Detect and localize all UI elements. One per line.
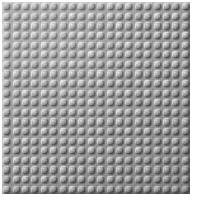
stud-cell <box>77 12 86 22</box>
stud-cell <box>11 69 20 79</box>
lego-stud <box>41 109 48 116</box>
lego-stud <box>182 70 189 77</box>
stud-cell <box>105 156 114 166</box>
lego-stud <box>13 99 20 106</box>
lego-stud <box>135 109 142 116</box>
lego-stud <box>163 80 170 87</box>
stud-cell <box>181 127 190 137</box>
stud-cell <box>181 146 190 156</box>
lego-stud <box>31 99 38 106</box>
lego-stud <box>107 42 114 49</box>
stud-cell <box>96 108 105 118</box>
stud-cell <box>40 21 49 31</box>
stud-cell <box>2 136 11 146</box>
lego-stud <box>69 176 76 183</box>
lego-stud <box>41 118 48 125</box>
stud-cell <box>21 88 30 98</box>
lego-stud <box>125 90 132 97</box>
stud-cell <box>49 146 58 156</box>
stud-cell <box>68 79 77 89</box>
lego-stud <box>116 32 123 39</box>
lego-stud <box>22 51 29 58</box>
stud-cell <box>49 156 58 166</box>
stud-cell <box>68 175 77 185</box>
lego-stud <box>107 109 114 116</box>
lego-stud <box>41 42 48 49</box>
stud-cell <box>21 50 30 60</box>
stud-cell <box>181 108 190 118</box>
lego-stud <box>13 32 20 39</box>
lego-stud <box>107 90 114 97</box>
lego-stud <box>13 138 20 145</box>
stud-cell <box>68 146 77 156</box>
stud-cell <box>143 184 152 194</box>
lego-stud <box>154 109 161 116</box>
stud-cell <box>115 50 124 60</box>
lego-stud <box>172 128 179 135</box>
lego-stud <box>31 70 38 77</box>
lego-stud <box>135 118 142 125</box>
lego-stud <box>88 176 95 183</box>
stud-cell <box>11 21 20 31</box>
lego-stud <box>31 176 38 183</box>
stud-cell <box>162 127 171 137</box>
lego-stud <box>3 157 10 164</box>
lego-stud <box>172 138 179 145</box>
lego-stud <box>41 157 48 164</box>
lego-stud <box>41 99 48 106</box>
lego-stud <box>41 32 48 39</box>
stud-cell <box>11 12 20 22</box>
stud-cell <box>2 69 11 79</box>
lego-stud <box>172 22 179 29</box>
stud-cell <box>124 98 133 108</box>
stud-cell <box>162 21 171 31</box>
lego-stud <box>13 70 20 77</box>
lego-stud <box>182 138 189 145</box>
lego-stud <box>172 42 179 49</box>
lego-stud <box>13 118 20 125</box>
lego-stud <box>31 128 38 135</box>
stud-cell <box>11 184 20 194</box>
lego-stud <box>31 51 38 58</box>
stud-cell <box>77 40 86 50</box>
lego-stud <box>22 128 29 135</box>
stud-cell <box>134 12 143 22</box>
stud-cell <box>40 50 49 60</box>
lego-stud <box>78 32 85 39</box>
lego-stud <box>116 13 123 20</box>
lego-stud <box>182 128 189 135</box>
lego-stud <box>182 42 189 49</box>
lego-stud <box>60 90 67 97</box>
lego-stud <box>107 138 114 145</box>
lego-stud <box>3 22 10 29</box>
stud-cell <box>162 98 171 108</box>
stud-cell <box>30 175 39 185</box>
stud-cell <box>152 156 161 166</box>
stud-cell <box>181 136 190 146</box>
lego-stud <box>31 22 38 29</box>
stud-cell <box>11 31 20 41</box>
lego-stud <box>135 61 142 68</box>
lego-stud <box>50 13 57 20</box>
stud-cell <box>87 184 96 194</box>
lego-stud <box>69 186 76 193</box>
lego-stud <box>163 61 170 68</box>
stud-cell <box>105 40 114 50</box>
lego-stud <box>182 109 189 116</box>
stud-cell <box>40 108 49 118</box>
stud-cell <box>68 127 77 137</box>
lego-stud <box>22 3 29 10</box>
lego-stud <box>144 32 151 39</box>
lego-stud <box>107 51 114 58</box>
lego-stud <box>116 61 123 68</box>
lego-stud <box>3 99 10 106</box>
stud-cell <box>49 12 58 22</box>
stud-cell <box>143 98 152 108</box>
lego-stud <box>182 51 189 58</box>
stud-cell <box>68 21 77 31</box>
lego-stud <box>3 90 10 97</box>
lego-stud <box>69 51 76 58</box>
lego-stud <box>78 147 85 154</box>
lego-stud <box>125 70 132 77</box>
lego-stud <box>41 13 48 20</box>
